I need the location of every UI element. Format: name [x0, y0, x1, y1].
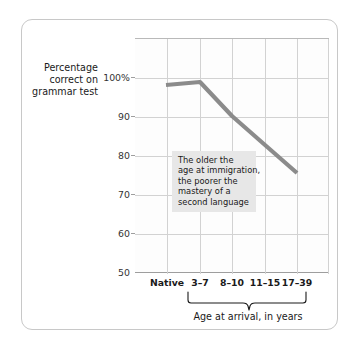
y-tick-label-100: 100% — [86, 72, 130, 83]
callout-line-4: mastery of a — [178, 186, 251, 196]
gridline-vertical-native — [167, 39, 168, 274]
y-tick-label-50: 50 — [86, 267, 130, 278]
y-tick-mark-60 — [131, 233, 135, 234]
y-tick-mark-100 — [131, 77, 135, 78]
y-tick-mark-80 — [131, 155, 135, 156]
x-axis-title: Age at arrival, in years — [180, 311, 316, 322]
y-tick-label-70: 70 — [86, 189, 130, 200]
callout-line-3: the poorer the — [178, 176, 251, 186]
callout-annotation: The older the age at immigration, the po… — [172, 151, 256, 212]
callout-line-5: second language — [178, 197, 251, 207]
y-axis-title-line-3: grammar test — [26, 86, 98, 98]
callout-line-1: The older the — [178, 155, 251, 165]
x-tick-label-17-39: 17–39 — [274, 277, 320, 288]
y-tick-mark-90 — [131, 116, 135, 117]
y-tick-label-80: 80 — [86, 150, 130, 161]
gridline-vertical-17-39 — [297, 39, 298, 274]
y-tick-mark-70 — [131, 194, 135, 195]
gridline-vertical-11-15 — [265, 39, 266, 274]
y-tick-label-90: 90 — [86, 111, 130, 122]
gridline-vertical-right-edge — [328, 39, 329, 274]
y-tick-label-60: 60 — [86, 228, 130, 239]
callout-line-2: age at immigration, — [178, 165, 251, 175]
